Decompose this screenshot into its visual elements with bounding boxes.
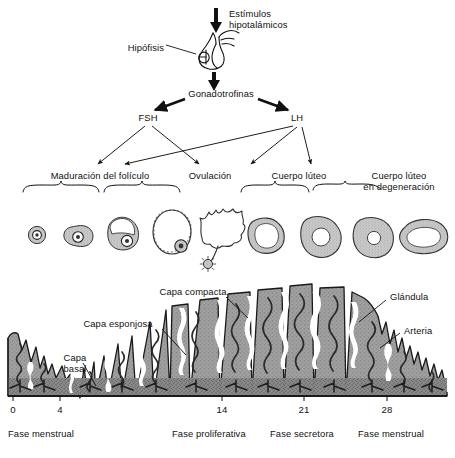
follicle-graafian: [153, 210, 191, 254]
stage-label-follicle-maturation: Maduración del folículo: [51, 170, 150, 181]
label-glandula: Glándula: [390, 291, 428, 302]
label-arteria: Arteria: [404, 325, 432, 336]
phase-label-menstrual-2: Fase menstrual: [358, 428, 424, 439]
stage-label-corpus-luteum-degenerating: Cuerpo lúteo en degeneración: [363, 170, 434, 192]
gonadotropin-split-arrows: [155, 99, 288, 110]
stage-label-ovulation: Ovulación: [189, 170, 232, 181]
stage-brackets: [23, 181, 381, 192]
phase-label-secretory: Fase secretora: [270, 428, 334, 439]
hormone-target-arrows: [98, 126, 311, 164]
phase-label-proliferative: Fase proliferativa: [172, 428, 246, 439]
hypothalamic-stimulus-label: Estímulos hipotalámicos: [229, 8, 288, 30]
corpus-albicans: [400, 219, 448, 253]
day-tick-21: 21: [299, 404, 310, 415]
stage-label-corpus-luteum: Cuerpo lúteo: [272, 170, 327, 181]
label-capa-compacta: Capa compacta: [160, 286, 227, 297]
fsh-label: FSH: [138, 112, 157, 123]
follicle-primary: [64, 226, 93, 247]
corpus-luteum-regressing: [353, 218, 393, 258]
ovulation-illustration: [200, 209, 245, 272]
day-tick-4: 4: [57, 404, 62, 415]
diagram-graphics: [0, 0, 455, 458]
hypothalamic-stimulus-arrow: [210, 8, 222, 33]
pituitary-illustration: [199, 31, 239, 70]
endometrium-panel: [8, 284, 447, 398]
label-capa-basal: Capa basal: [64, 352, 87, 374]
corpus-luteum-early: [248, 218, 284, 253]
day-tick-0: 0: [10, 404, 15, 415]
day-tick-28: 28: [382, 404, 393, 415]
phase-label-menstrual-1: Fase menstrual: [8, 428, 74, 439]
follicle-primordial: [28, 226, 45, 243]
ovarian-cycle-illustrations: [28, 209, 447, 272]
day-tick-14: 14: [217, 404, 228, 415]
gonadotropins-label: Gonadotrofinas: [188, 88, 254, 99]
pituitary-leader-line: [166, 45, 196, 54]
follicle-secondary: [108, 217, 139, 250]
figure-canvas: Estímulos hipotalámicos Hipófisis Gonado…: [0, 0, 455, 458]
corpus-luteum-mature: [301, 217, 341, 258]
pituitary-label: Hipófisis: [128, 42, 164, 53]
lh-label: LH: [291, 112, 303, 123]
label-capa-esponjosa: Capa esponjosa: [83, 318, 152, 329]
